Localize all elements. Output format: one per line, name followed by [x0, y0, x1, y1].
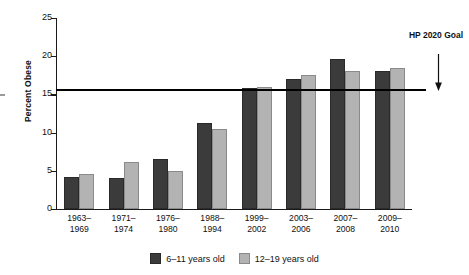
- y-tick-label-20: 20: [42, 50, 52, 60]
- legend-item: 12–19 years old: [239, 253, 319, 264]
- bar-group: [57, 18, 101, 209]
- bar: [301, 75, 316, 209]
- bar: [345, 71, 360, 209]
- bar: [212, 129, 227, 209]
- legend-swatch: [239, 253, 250, 264]
- hp2020-goal-label-line2: Goal: [444, 30, 463, 40]
- x-axis-labels: 1963–19691971–19741976–19801988–19941999…: [57, 213, 412, 234]
- x-axis-line: [56, 209, 412, 210]
- y-tick-label-5: 5: [47, 165, 52, 175]
- y-axis-title: Percent Obese: [23, 41, 33, 141]
- legend-item: 6–11 years old: [150, 253, 224, 264]
- legend-label: 6–11 years old: [166, 254, 224, 264]
- y-tick-label-25: 25: [42, 12, 52, 22]
- bar: [375, 71, 390, 209]
- bar: [124, 162, 139, 209]
- legend-swatch: [150, 253, 161, 264]
- x-axis-tick-label: 2003–2006: [279, 213, 323, 234]
- bar: [168, 171, 183, 209]
- x-axis-tick-label: 1999–2002: [235, 213, 279, 234]
- bar-group: [146, 18, 190, 209]
- bar: [330, 59, 345, 209]
- hp2020-goal-line: [56, 89, 426, 91]
- y-tick-label-15: 15: [42, 88, 52, 98]
- obesity-bar-chart: Percent Obese 0 5 10 15 20 25: [0, 0, 469, 275]
- y-tick-label-10: 10: [42, 127, 52, 137]
- goal-arrow-icon: [434, 54, 443, 92]
- bar: [197, 123, 212, 209]
- bar: [257, 87, 272, 209]
- y-tick-label-0: 0: [47, 203, 52, 213]
- bar-groups: [57, 18, 412, 209]
- bar-group: [235, 18, 279, 209]
- x-axis-tick-label: 2007–2008: [323, 213, 367, 234]
- x-axis-tick-label: 1963–1969: [57, 213, 101, 234]
- hp2020-goal-label: HP 2020 Goal: [405, 30, 467, 41]
- plot-area: 0 5 10 15 20 25: [56, 18, 412, 210]
- bar: [64, 177, 79, 209]
- bar-group: [190, 18, 234, 209]
- bar: [153, 159, 168, 209]
- x-axis-tick-label: 1971–1974: [101, 213, 145, 234]
- bar-group: [323, 18, 367, 209]
- chart-legend: 6–11 years old12–19 years old: [0, 253, 469, 264]
- bar: [242, 88, 257, 209]
- y-tick-0: 0: [56, 209, 61, 210]
- bar-group: [279, 18, 323, 209]
- bar: [109, 178, 124, 209]
- bar: [286, 79, 301, 209]
- bar: [79, 174, 94, 209]
- bar-group: [368, 18, 412, 209]
- hp2020-goal-label-line1: HP 2020: [409, 30, 442, 40]
- scan-edge-artifact: [0, 94, 5, 96]
- legend-label: 12–19 years old: [255, 254, 319, 264]
- bar-group: [101, 18, 145, 209]
- x-axis-tick-label: 1988–1994: [190, 213, 234, 234]
- x-axis-tick-label: 1976–1980: [146, 213, 190, 234]
- x-axis-tick-label: 2009–2010: [368, 213, 412, 234]
